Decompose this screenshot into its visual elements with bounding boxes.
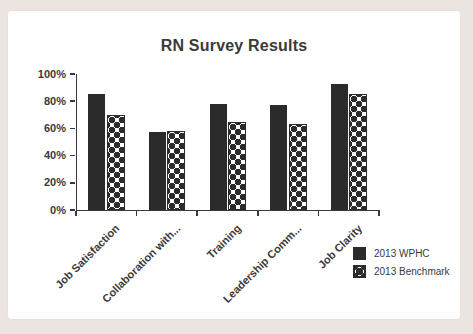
y-tick-label: 0% [26, 205, 66, 216]
slide-card: RN Survey Results 0%20%40%60%80%100% Job… [7, 10, 461, 320]
y-axis-tick [70, 155, 75, 157]
bar-2013-benchmark-job-satisfaction [107, 115, 125, 210]
x-category-label-job-satisfaction: Job Satisfaction [53, 222, 122, 291]
legend: 2013 WPHC 2013 Benchmark [353, 247, 450, 283]
bar-2013-wphc-job-clarity [331, 84, 348, 210]
x-axis-tick [318, 211, 320, 216]
legend-item-benchmark: 2013 Benchmark [353, 265, 450, 278]
x-axis-tick [136, 211, 138, 216]
chart-title: RN Survey Results [8, 37, 460, 55]
bar-2013-wphc-collaboration-with [149, 132, 166, 210]
legend-label-benchmark: 2013 Benchmark [374, 265, 450, 278]
bar-2013-benchmark-collaboration-with [167, 131, 185, 210]
bar-2013-benchmark-training [228, 122, 246, 210]
legend-item-wphc: 2013 WPHC [353, 247, 450, 260]
bar-2013-wphc-leadership-comm [270, 105, 287, 210]
bar-2013-wphc-job-satisfaction [88, 94, 105, 210]
legend-swatch-solid-icon [353, 247, 366, 260]
y-axis-tick [70, 128, 75, 130]
legend-label-wphc: 2013 WPHC [374, 247, 430, 260]
bar-2013-benchmark-leadership-comm [289, 124, 307, 210]
y-tick-label: 20% [26, 177, 66, 188]
x-axis-tick [75, 211, 77, 216]
y-axis-tick [70, 100, 75, 102]
x-axis-tick [257, 211, 259, 216]
y-axis-tick [70, 182, 75, 184]
y-tick-label: 60% [26, 123, 66, 134]
y-tick-label: 100% [26, 69, 66, 80]
x-category-label-training: Training [204, 222, 243, 261]
x-axis-tick [196, 211, 198, 216]
y-axis-tick [70, 73, 75, 75]
bar-2013-benchmark-job-clarity [349, 94, 367, 210]
y-tick-label: 80% [26, 96, 66, 107]
y-axis-tick [70, 209, 75, 211]
legend-swatch-polka-dot-icon [353, 265, 366, 278]
y-tick-label: 40% [26, 150, 66, 161]
x-axis-tick [378, 211, 380, 216]
bar-2013-wphc-training [210, 104, 227, 210]
